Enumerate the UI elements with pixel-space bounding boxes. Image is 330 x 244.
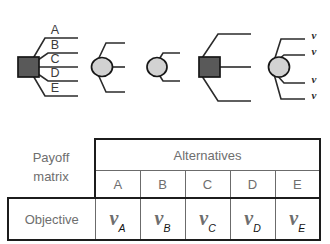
outcome-label-nu-1: ν bbox=[312, 29, 317, 41]
node-group-3 bbox=[147, 53, 180, 81]
alternatives-group-header: Alternatives bbox=[95, 139, 320, 171]
node-group-4 bbox=[199, 34, 251, 101]
table-row-group-header: Payoff matrix Alternatives bbox=[8, 139, 320, 171]
chance-node-circle-2 bbox=[92, 58, 113, 77]
column-header-C: C bbox=[185, 171, 230, 199]
payoff-value-D: νD bbox=[230, 198, 275, 240]
row-label-objective: Objective bbox=[8, 198, 95, 240]
outcome-label-nu-4: ν bbox=[312, 89, 317, 101]
payoff-matrix-container: Payoff matrix Alternatives A B C D E Obj… bbox=[7, 138, 323, 238]
nu-symbol-E: ν bbox=[289, 207, 298, 229]
payoff-value-E: νE bbox=[275, 198, 320, 240]
branch-label-A: A bbox=[51, 23, 60, 37]
decision-tree-diagram: A B C D E bbox=[0, 0, 330, 128]
payoff-value-C: νC bbox=[185, 198, 230, 240]
nu-subscript-D: D bbox=[253, 222, 261, 234]
branch-label-C: C bbox=[50, 52, 59, 66]
branch-label-B: B bbox=[51, 38, 59, 52]
nu-symbol-C: ν bbox=[199, 207, 208, 229]
payoff-value-A: νA bbox=[95, 198, 140, 240]
matrix-caption-line-1: Payoff bbox=[8, 149, 94, 168]
outcome-label-nu-3: ν bbox=[312, 73, 317, 85]
figure-root: A B C D E bbox=[0, 0, 330, 244]
table-row-objective: Objective νA νB νC νD νE bbox=[8, 198, 320, 240]
decision-node-square-4 bbox=[199, 57, 220, 77]
nu-subscript-C: C bbox=[208, 222, 216, 234]
node-group-2 bbox=[92, 43, 126, 92]
payoff-value-B: νB bbox=[140, 198, 185, 240]
matrix-caption-line-2: matrix bbox=[8, 168, 94, 187]
column-header-E: E bbox=[275, 171, 320, 199]
column-header-B: B bbox=[140, 171, 185, 199]
nu-symbol-D: ν bbox=[244, 207, 253, 229]
decision-node-square-1 bbox=[18, 57, 39, 77]
nu-subscript-A: A bbox=[118, 222, 125, 234]
branch-label-E: E bbox=[51, 81, 59, 95]
branch-label-D: D bbox=[50, 66, 59, 80]
nu-subscript-E: E bbox=[298, 222, 305, 234]
node-group-5: ν ν ν ν bbox=[269, 29, 317, 101]
node-group-1: A B C D E bbox=[18, 23, 78, 96]
matrix-caption: Payoff matrix bbox=[8, 139, 95, 198]
column-header-A: A bbox=[95, 171, 140, 199]
nu-subscript-B: B bbox=[163, 222, 170, 234]
chance-node-circle-5 bbox=[269, 57, 290, 77]
payoff-matrix-table: Payoff matrix Alternatives A B C D E Obj… bbox=[7, 138, 321, 241]
chance-node-circle-3 bbox=[147, 58, 167, 77]
outcome-label-nu-2: ν bbox=[312, 45, 317, 57]
column-header-D: D bbox=[230, 171, 275, 199]
